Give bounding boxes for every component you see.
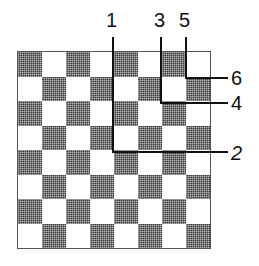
light-square (162, 77, 186, 102)
light-square (42, 101, 66, 126)
cut-line-1 (112, 37, 114, 153)
dark-square (42, 77, 66, 102)
light-square (138, 52, 162, 77)
light-square (90, 150, 114, 175)
light-square (18, 224, 42, 249)
light-square (138, 150, 162, 175)
light-square (18, 126, 42, 151)
dark-square (186, 175, 210, 200)
dark-square (138, 126, 162, 151)
dark-square (18, 52, 42, 77)
light-square (42, 199, 66, 224)
light-square (162, 175, 186, 200)
dark-square (42, 126, 66, 151)
dark-square (162, 199, 186, 224)
dark-square (162, 52, 186, 77)
light-square (90, 199, 114, 224)
cut-line-2 (112, 151, 228, 153)
checkerboard (17, 51, 211, 249)
dark-square (162, 150, 186, 175)
light-square (18, 77, 42, 102)
dark-square (18, 101, 42, 126)
dark-square (162, 101, 186, 126)
label-3: 3 (154, 10, 165, 30)
light-square (90, 52, 114, 77)
dark-square (90, 224, 114, 249)
light-square (186, 52, 210, 77)
cut-line-5 (185, 37, 187, 79)
dark-square (114, 199, 138, 224)
dark-square (138, 224, 162, 249)
light-square (66, 175, 90, 200)
light-square (114, 175, 138, 200)
light-square (186, 199, 210, 224)
light-square (66, 224, 90, 249)
dark-square (18, 150, 42, 175)
cut-line-3 (160, 37, 162, 104)
cut-line-6 (185, 77, 228, 79)
dark-square (138, 175, 162, 200)
dark-square (138, 77, 162, 102)
light-square (66, 77, 90, 102)
light-square (186, 150, 210, 175)
dark-square (42, 175, 66, 200)
light-square (18, 175, 42, 200)
dark-square (186, 126, 210, 151)
dark-square (66, 150, 90, 175)
dark-square (186, 77, 210, 102)
dark-square (90, 175, 114, 200)
light-square (162, 126, 186, 151)
label-1: 1 (106, 10, 117, 30)
light-square (42, 52, 66, 77)
dark-square (42, 224, 66, 249)
light-square (42, 150, 66, 175)
dark-square (66, 52, 90, 77)
label-6: 6 (231, 68, 242, 88)
dark-square (18, 199, 42, 224)
light-square (66, 126, 90, 151)
light-square (138, 101, 162, 126)
light-square (186, 101, 210, 126)
cut-line-4 (160, 102, 228, 104)
label-2: 2 (231, 143, 242, 163)
dark-square (114, 150, 138, 175)
light-square (138, 199, 162, 224)
dark-square (186, 224, 210, 249)
label-4: 4 (231, 93, 242, 113)
light-square (162, 224, 186, 249)
dark-square (90, 77, 114, 102)
light-square (114, 126, 138, 151)
dark-square (66, 199, 90, 224)
light-square (114, 224, 138, 249)
light-square (90, 101, 114, 126)
dark-square (90, 126, 114, 151)
light-square (114, 77, 138, 102)
dark-square (114, 52, 138, 77)
dark-square (114, 101, 138, 126)
dark-square (66, 101, 90, 126)
label-5: 5 (179, 10, 190, 30)
